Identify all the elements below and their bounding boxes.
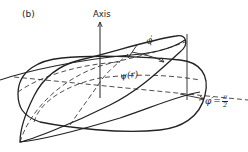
panel-label: (b) [22, 10, 35, 19]
psi-label: ψ(r) [120, 70, 139, 81]
phi-eq-lhs: φ′= [205, 96, 221, 106]
axis-label: Axis [93, 10, 111, 19]
dashed-curve-1 [20, 42, 185, 142]
tilted-lobe-curve [20, 36, 186, 142]
phi-equals-pi-half-label: φ′=π2 [205, 94, 228, 109]
fraction-denominator: 2 [222, 102, 228, 109]
dashed-curve-3 [70, 54, 128, 125]
upper-sweep-curve [0, 40, 185, 80]
pi-half-fraction: π2 [222, 94, 228, 109]
